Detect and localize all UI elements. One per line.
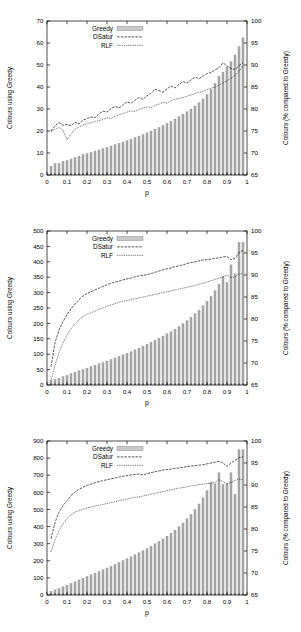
y2-tick-label: 90 — [251, 271, 258, 278]
bar — [162, 126, 164, 176]
x-tick-label: 0 — [45, 178, 49, 185]
x-tick-label: 0.8 — [203, 598, 212, 605]
y2-tick-label: 95 — [251, 459, 258, 466]
y-axis-right: 65707580859095100Colours (% compared to … — [244, 227, 290, 388]
bar — [174, 530, 176, 595]
y2-tick-label: 85 — [251, 83, 258, 90]
y2-tick-label: 70 — [251, 149, 258, 156]
y-tick-label: 350 — [33, 273, 44, 280]
bar-series — [50, 242, 244, 385]
bar — [186, 112, 188, 175]
y-tick-label: 600 — [33, 489, 44, 496]
bar — [130, 352, 132, 385]
bar — [122, 355, 124, 385]
bar — [102, 149, 104, 175]
bar — [198, 504, 200, 595]
bar — [170, 121, 172, 175]
x-tick-label: 1 — [245, 598, 249, 605]
y-axis-label: Colours using Greedy — [6, 486, 14, 549]
bar — [82, 578, 84, 595]
bar — [166, 536, 168, 595]
bar — [138, 136, 140, 175]
bar — [130, 557, 132, 595]
x-tick-label: 0.1 — [63, 598, 72, 605]
y-tick-label: 30 — [37, 105, 44, 112]
bar — [154, 129, 156, 175]
y-tick-label: 450 — [33, 243, 44, 250]
y-tick-label: 700 — [33, 471, 44, 478]
bar — [114, 145, 116, 175]
x-tick-label: 0 — [45, 388, 49, 395]
bar — [110, 359, 112, 385]
y-tick-label: 300 — [33, 540, 44, 547]
y2-tick-label: 100 — [251, 227, 262, 234]
y-tick-label: 0 — [40, 591, 44, 598]
y-axis-right: 65707580859095100Colours (% compared to … — [244, 437, 290, 598]
y-tick-label: 20 — [37, 127, 44, 134]
bar — [90, 367, 92, 385]
y2-tick-label: 70 — [251, 569, 258, 576]
y-tick-label: 200 — [33, 557, 44, 564]
x-tick-label: 0.3 — [103, 388, 112, 395]
bar — [98, 150, 100, 175]
x-tick-label: 0.7 — [183, 178, 192, 185]
bar — [82, 155, 84, 175]
x-tick-label: 0.7 — [183, 388, 192, 395]
bar — [70, 583, 72, 595]
x-tick-label: 1 — [245, 388, 249, 395]
y-tick-label: 400 — [33, 523, 44, 530]
y-axis-label: Colours using Greedy — [6, 276, 14, 339]
bar — [198, 103, 200, 175]
bar — [134, 555, 136, 595]
bar — [230, 473, 232, 595]
bar — [178, 117, 180, 175]
chart-svg-2: 00.10.20.30.40.50.60.70.80.91p0501001502… — [0, 210, 301, 420]
bar — [106, 361, 108, 385]
bar — [170, 332, 172, 385]
legend-label-greedy: Greedy — [92, 235, 114, 243]
bar — [146, 344, 148, 385]
bar — [146, 548, 148, 595]
bar — [222, 72, 224, 175]
y2-tick-label: 75 — [251, 127, 258, 134]
x-tick-label: 0 — [45, 598, 49, 605]
x-tick-label: 0.4 — [123, 178, 132, 185]
bar — [74, 582, 76, 595]
bar — [206, 301, 208, 385]
y2-tick-label: 100 — [251, 437, 262, 444]
x-tick-label: 0.5 — [143, 178, 152, 185]
y-axis-left: 0100200300400500600700800900Colours usin… — [6, 437, 50, 598]
legend-label-dsatur: DSatur — [93, 33, 114, 40]
bar — [226, 67, 228, 175]
bar — [154, 340, 156, 385]
bar — [150, 342, 152, 385]
bar — [74, 157, 76, 175]
y2-tick-label: 90 — [251, 61, 258, 68]
bar — [174, 329, 176, 385]
bar — [238, 242, 240, 385]
x-tick-label: 0.2 — [83, 178, 92, 185]
y-tick-label: 100 — [33, 574, 44, 581]
bar — [118, 356, 120, 385]
x-tick-label: 0.4 — [123, 388, 132, 395]
bar — [190, 317, 192, 385]
y2-tick-label: 80 — [251, 525, 258, 532]
y2-tick-label: 85 — [251, 293, 258, 300]
bar — [178, 326, 180, 385]
bar — [166, 124, 168, 175]
bar — [190, 514, 192, 595]
chart-svg-1: 00.10.20.30.40.50.60.70.80.91p0102030405… — [0, 0, 301, 210]
legend-label-rlf: RLF — [101, 252, 113, 259]
bar — [74, 372, 76, 385]
bar — [70, 159, 72, 175]
bar — [138, 553, 140, 595]
bar — [150, 131, 152, 175]
y-tick-label: 50 — [37, 366, 44, 373]
y2-tick-label: 65 — [251, 591, 258, 598]
bar — [106, 568, 108, 595]
figure-root: 00.10.20.30.40.50.60.70.80.91p0102030405… — [0, 0, 301, 632]
bar — [58, 163, 60, 175]
legend-swatch-greedy — [117, 236, 143, 240]
y-tick-label: 60 — [37, 39, 44, 46]
legend-swatch-greedy — [117, 26, 143, 30]
